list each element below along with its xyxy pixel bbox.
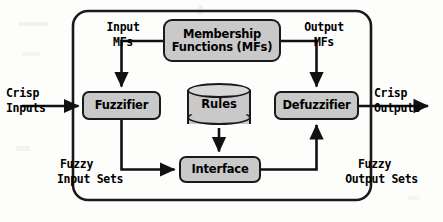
label-output-mfs-line2: MFs [289, 35, 359, 50]
node-defuzzifier[interactable]: Defuzzifier [274, 91, 359, 120]
label-crisp-outputs-line2: Outputs [374, 101, 443, 116]
node-interface-label: Interface [191, 163, 248, 176]
node-fuzzifier[interactable]: Fuzzifier [82, 91, 161, 120]
label-fuzzy-input-sets-line1: Fuzzy [57, 157, 161, 172]
node-rules[interactable]: Rules [187, 83, 251, 131]
label-fuzzy-input-sets-line2: Input Sets [57, 172, 161, 187]
label-fuzzy-output-sets-line2: Output Sets [314, 172, 418, 187]
label-fuzzy-output-sets: Fuzzy Output Sets [314, 157, 418, 186]
node-rules-label: Rules [187, 97, 251, 111]
label-output-mfs: Output MFs [289, 20, 359, 49]
label-fuzzy-output-sets-line1: Fuzzy [314, 157, 418, 172]
fuzzy-logic-system-diagram: Membership Functions (MFs) Fuzzifier Rul… [0, 0, 443, 222]
node-membership-functions-line1: Membership [183, 28, 261, 41]
label-input-mfs: Input MFs [92, 20, 154, 49]
wire-fuzzy-output-sets [261, 125, 317, 170]
label-input-mfs-line2: MFs [92, 35, 154, 50]
node-membership-functions[interactable]: Membership Functions (MFs) [163, 19, 281, 62]
label-input-mfs-line1: Input [92, 20, 154, 35]
label-crisp-outputs: Crisp Outputs [374, 86, 443, 115]
label-output-mfs-line1: Output [289, 20, 359, 35]
node-membership-functions-line2: Functions (MFs) [172, 41, 273, 54]
label-crisp-inputs-line1: Crisp [6, 86, 76, 101]
node-interface[interactable]: Interface [179, 156, 261, 183]
label-fuzzy-input-sets: Fuzzy Input Sets [57, 157, 161, 186]
cylinder-top [187, 83, 251, 98]
cylinder-bottom [187, 110, 251, 125]
node-defuzzifier-label: Defuzzifier [282, 99, 350, 112]
node-fuzzifier-label: Fuzzifier [95, 99, 148, 112]
label-crisp-outputs-line1: Crisp [374, 86, 443, 101]
label-crisp-inputs-line2: Inputs [6, 101, 76, 116]
label-crisp-inputs: Crisp Inputs [6, 86, 76, 115]
